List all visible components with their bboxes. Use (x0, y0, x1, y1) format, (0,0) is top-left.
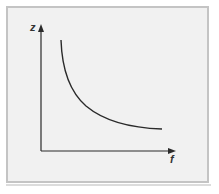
y-axis (38, 24, 44, 151)
diagram-canvas: z f (0, 0, 219, 194)
x-axis-label: f (170, 153, 175, 165)
y-axis-arrow-icon (38, 24, 44, 32)
y-axis-label: z (29, 21, 36, 33)
inverse-curve (61, 40, 162, 129)
x-axis (41, 148, 176, 154)
